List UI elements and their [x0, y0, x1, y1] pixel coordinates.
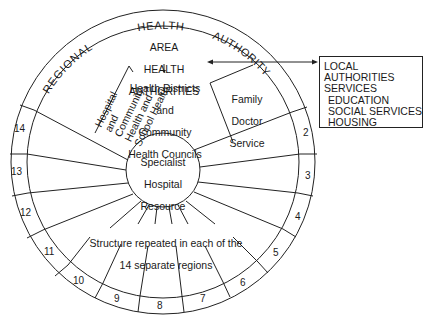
region-number-8: 8 — [157, 300, 163, 311]
region-number-2: 2 — [303, 127, 309, 138]
region-number-5: 5 — [273, 247, 279, 258]
regional-health-structure-diagram: REGIONAL HEALTH AUTHORITY Hospital and C… — [0, 0, 430, 325]
region-number-4: 4 — [295, 211, 301, 222]
specialist-hospital-resource-label: Specialist Hospital Resource — [128, 146, 198, 223]
region-number-9: 9 — [114, 293, 120, 304]
ring-text-authority: AUTHORITY — [211, 29, 273, 78]
family-doctor-service-label: Family Doctor Service — [222, 83, 272, 160]
region-number-13: 13 — [11, 166, 23, 177]
local-authorities-box: LOCAL AUTHORITIES SERVICES EDUCATION SOC… — [319, 56, 423, 128]
arrow-right-head — [312, 60, 318, 65]
region-number-12: 12 — [20, 207, 32, 218]
region-number-7: 7 — [200, 293, 206, 304]
region-number-14: 14 — [14, 123, 26, 134]
region-number-3: 3 — [305, 170, 311, 181]
region-number-11: 11 — [44, 246, 55, 257]
structure-note-label: Structure repeated in each of the 14 sep… — [76, 227, 256, 282]
ring-text-regional: REGIONAL — [40, 40, 95, 95]
